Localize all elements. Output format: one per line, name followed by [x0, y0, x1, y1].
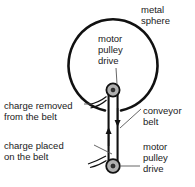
label-motor-bottom-line3: drive [143, 163, 168, 174]
label-charge-removed-line1: charge removed [4, 100, 73, 111]
label-charge-placed-line1: charge placed [4, 140, 64, 151]
label-charge-placed-line2: on the belt [4, 151, 64, 162]
leader-conveyor-belt [120, 109, 141, 128]
label-motor-pulley-drive-top: motor pulley drive [98, 33, 123, 66]
label-metal-sphere-line1: metal [141, 4, 170, 15]
label-conveyor-belt: conveyor belt [143, 105, 182, 127]
label-motor-top-line2: pulley [98, 44, 123, 55]
conveyor-belt-shape [109, 90, 118, 166]
label-charge-removed-line2: from the belt [4, 111, 73, 122]
label-motor-bottom-line2: pulley [143, 152, 168, 163]
label-metal-sphere-line2: sphere [141, 15, 170, 26]
label-motor-bottom-line1: motor [143, 141, 168, 152]
label-conveyor-belt-line2: belt [143, 116, 182, 127]
label-motor-top-line1: motor [98, 33, 123, 44]
label-metal-sphere: metal sphere [141, 4, 170, 26]
leader-motor-top [116, 68, 117, 84]
label-motor-pulley-drive-bottom: motor pulley drive [143, 141, 168, 174]
top-motor-pulley-drive-shape [106, 83, 119, 96]
charge-placed-comb-icon [88, 156, 107, 168]
label-charge-removed: charge removed from the belt [4, 100, 73, 122]
bottom-motor-pulley-drive-shape [106, 159, 120, 173]
label-charge-placed: charge placed on the belt [4, 140, 64, 162]
diagram-canvas: metal sphere motor pulley drive charge r… [0, 0, 195, 187]
belt-arrow-up-icon [106, 127, 112, 146]
belt-arrow-down-icon [115, 108, 121, 127]
label-motor-top-line3: drive [98, 55, 123, 66]
label-conveyor-belt-line1: conveyor [143, 105, 182, 116]
